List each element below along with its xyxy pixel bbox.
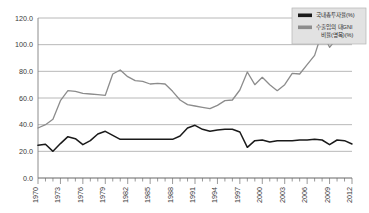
legend-label-trade-line1: 수출입의 대GNI xyxy=(316,23,353,31)
x-tick-label: 1988 xyxy=(166,187,175,203)
x-tick-label: 2006 xyxy=(300,187,309,203)
legend-label-trade-line2: 비율(명목)(%) xyxy=(321,31,354,39)
y-tick-label: 40.0 xyxy=(19,120,33,129)
y-tick-label: 60.0 xyxy=(19,94,33,103)
x-tick-label: 2009 xyxy=(323,187,332,203)
x-tick-marks xyxy=(38,178,352,184)
legend-label-investment: 국내총투자율(%) xyxy=(316,11,355,19)
legend-swatch-investment xyxy=(298,14,312,18)
legend-swatch-trade xyxy=(298,26,312,30)
y-tick-labels: 0.020.040.060.080.0100.0120.0 xyxy=(15,14,33,183)
x-tick-label: 2012 xyxy=(345,187,354,203)
line-chart: 0.020.040.060.080.0100.0120.0 1970197319… xyxy=(0,0,369,213)
x-tick-labels: 1970197319761979198219851988199119941997… xyxy=(31,187,354,203)
y-tick-label: 80.0 xyxy=(19,67,33,76)
x-tick-label: 1973 xyxy=(53,187,62,203)
series-line xyxy=(38,125,352,151)
y-tick-label: 0.0 xyxy=(23,174,33,183)
x-tick-label: 1997 xyxy=(233,187,242,203)
x-tick-label: 1991 xyxy=(188,187,197,203)
x-tick-label: 1979 xyxy=(98,187,107,203)
x-tick-label: 2000 xyxy=(255,187,264,203)
legend: 국내총투자율(%) 수출입의 대GNI 비율(명목)(%) xyxy=(292,8,366,44)
y-tick-label: 20.0 xyxy=(19,147,33,156)
series-lines xyxy=(38,29,352,152)
x-tick-label: 1976 xyxy=(76,187,85,203)
x-tick-label: 1982 xyxy=(121,187,130,203)
x-tick-label: 1994 xyxy=(210,187,219,203)
chart-container: 0.020.040.060.080.0100.0120.0 1970197319… xyxy=(0,0,369,213)
y-tick-label: 120.0 xyxy=(15,14,33,23)
x-tick-label: 1985 xyxy=(143,187,152,203)
y-tick-label: 100.0 xyxy=(15,40,33,49)
x-tick-label: 1970 xyxy=(31,187,40,203)
x-tick-label: 2003 xyxy=(278,187,287,203)
